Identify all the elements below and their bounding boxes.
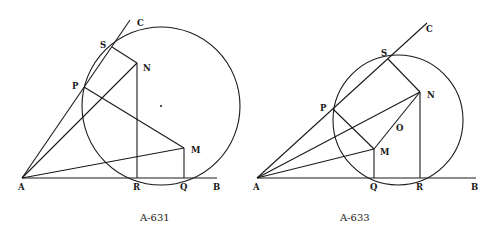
- segment-an: [22, 63, 137, 178]
- point-label-q: Q: [370, 182, 378, 192]
- point-label-s: S: [381, 48, 387, 58]
- point-label-q: Q: [180, 182, 188, 192]
- point-label-p: P: [72, 81, 79, 91]
- point-label-s: S: [100, 40, 106, 50]
- point-label-c: C: [137, 18, 144, 28]
- segment-pm: [333, 109, 374, 149]
- point-label-b: B: [471, 182, 478, 192]
- point-label-m: M: [191, 145, 201, 155]
- point-label-n: N: [427, 90, 435, 100]
- point-label-r: R: [416, 182, 424, 192]
- point-label-o: O: [396, 123, 404, 133]
- segment-am: [22, 148, 184, 178]
- point-label-a: A: [252, 182, 260, 192]
- figure-a-631: ABCSNPMRQA-631: [17, 18, 240, 223]
- geometry-diagram: ABCSNPMRQA-631ABCSNPOMQRA-633: [0, 0, 495, 236]
- segment-sn: [112, 47, 137, 63]
- segment-sn: [388, 59, 420, 92]
- segment-ac: [22, 20, 130, 178]
- segment-ac: [257, 23, 427, 178]
- point-label-r: R: [133, 182, 141, 192]
- point-label-b: B: [213, 182, 220, 192]
- segment-mn: [374, 92, 420, 149]
- figure-caption: A-633: [339, 212, 370, 223]
- point-label-m: M: [380, 147, 390, 157]
- segment-an: [257, 92, 420, 178]
- figure-caption: A-631: [139, 212, 170, 223]
- segment-am: [257, 149, 374, 178]
- figure-a-633: ABCSNPOMQRA-633: [252, 23, 478, 223]
- center-dot: [160, 105, 162, 107]
- point-label-a: A: [17, 182, 25, 192]
- point-label-p: P: [320, 103, 327, 113]
- point-label-c: C: [426, 24, 433, 34]
- segment-pm: [84, 87, 184, 148]
- point-label-n: N: [143, 63, 151, 73]
